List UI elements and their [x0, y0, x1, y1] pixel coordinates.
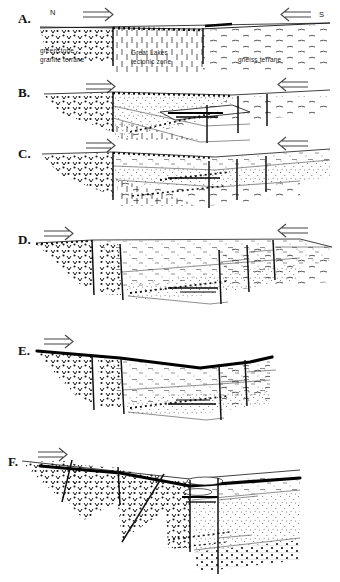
panel-b: B. — [18, 78, 330, 143]
arrow-left-double-icon-d — [278, 224, 308, 237]
panel-a: A. N S greenstone - granite terrane Grea… — [18, 8, 330, 72]
panel-c: C. — [18, 137, 330, 208]
label-greenstone-line1: greenstone - — [40, 47, 78, 55]
panel-letter-b: B. — [18, 85, 30, 100]
unit-greenstone-granite-b — [44, 93, 113, 132]
unit-greenstone-granite-c — [42, 153, 113, 196]
label-gneiss-terrane: gneiss terrane — [238, 56, 282, 64]
compass-north-label: N — [50, 8, 55, 17]
panel-letter-a: A. — [18, 11, 31, 26]
panel-letter-c: C. — [18, 146, 31, 161]
panel-f: F. — [8, 448, 300, 574]
panel-letter-d: D. — [18, 232, 31, 247]
label-tectonic-zone-line2: tectonic zone — [131, 58, 172, 65]
unit-greenstone-granite-d1 — [36, 241, 92, 290]
unit-gneiss-terrane-d — [222, 246, 330, 290]
panel-e: E. — [18, 335, 276, 420]
arrow-left-double-icon-b — [278, 78, 308, 91]
unit-greenstone-granite-e1 — [37, 352, 92, 404]
arrow-right-double-icon-e — [44, 335, 73, 348]
arrow-right-double-icon-b — [86, 80, 115, 93]
arrow-left-double-icon-c — [278, 137, 308, 150]
geologic-cross-section-figure: A. N S greenstone - granite terrane Grea… — [0, 0, 340, 582]
arrow-right-double-icon-c — [86, 139, 115, 152]
label-tectonic-zone-line1: Great Lakes — [131, 49, 168, 56]
arrow-right-double-icon-a — [83, 8, 113, 21]
panel-d: D. — [18, 224, 332, 304]
panel-letter-e: E. — [18, 343, 30, 358]
label-greenstone-line2: granite terrane — [40, 56, 85, 64]
panel-letter-f: F. — [8, 454, 18, 469]
unit-gneiss-terrane-a — [203, 24, 330, 72]
arrow-left-double-icon-a — [281, 8, 311, 21]
arrow-right-double-icon-d — [44, 227, 73, 240]
compass-south-label: S — [319, 10, 324, 19]
figure-svg: A. N S greenstone - granite terrane Grea… — [0, 0, 340, 582]
lens-oval-f2 — [184, 489, 212, 496]
arrow-right-double-icon-f — [38, 448, 67, 461]
